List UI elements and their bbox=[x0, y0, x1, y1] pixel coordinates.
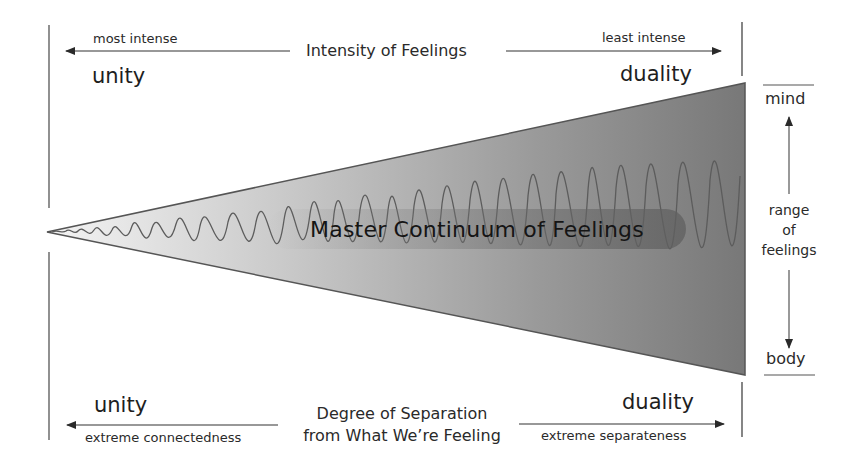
bottom-right-end-label: extreme separateness bbox=[541, 428, 687, 443]
top-left-end-label: most intense bbox=[93, 31, 178, 46]
top-axis-label: Intensity of Feelings bbox=[306, 41, 467, 60]
range-label-line1: range bbox=[760, 200, 818, 220]
bottom-right-pole-duality: duality bbox=[622, 390, 694, 414]
range-of-feelings-label: range of feelings bbox=[760, 200, 818, 260]
bottom-left-end-label: extreme connectedness bbox=[85, 430, 241, 445]
bottom-axis-label: Degree of Separation from What We’re Fee… bbox=[282, 403, 522, 447]
bottom-axis-label-line2: from What We’re Feeling bbox=[282, 425, 522, 447]
bottom-axis-label-line1: Degree of Separation bbox=[282, 403, 522, 425]
diagram-title: Master Continuum of Feelings bbox=[310, 217, 644, 242]
top-left-pole-unity: unity bbox=[92, 64, 145, 88]
bottom-left-pole-unity: unity bbox=[94, 393, 147, 417]
range-label-line3: feelings bbox=[760, 240, 818, 260]
body-label: body bbox=[766, 349, 806, 368]
top-right-end-label: least intense bbox=[602, 30, 686, 45]
top-right-pole-duality: duality bbox=[620, 62, 692, 86]
diagram-title-pill: Master Continuum of Feelings bbox=[268, 209, 686, 249]
mind-label: mind bbox=[765, 89, 805, 108]
range-label-line2: of bbox=[760, 220, 818, 240]
